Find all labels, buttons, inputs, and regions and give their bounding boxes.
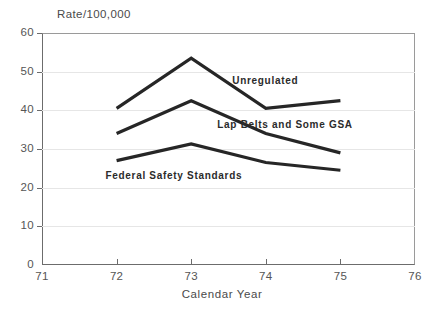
series-label: Unregulated <box>232 75 298 86</box>
series-line <box>117 144 341 170</box>
series-label: Federal Safety Standards <box>105 170 242 181</box>
series-line <box>117 58 341 108</box>
series-label: Lap Belts and Some GSA <box>217 119 352 130</box>
line-chart: Rate/100,000 0102030405060 717273747576 … <box>0 0 444 314</box>
x-axis-title: Calendar Year <box>0 288 444 300</box>
series-layer <box>0 0 444 314</box>
